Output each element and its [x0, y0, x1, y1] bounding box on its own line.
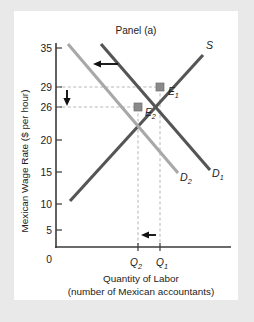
- equilibrium-marker-e1: [156, 83, 164, 91]
- y-tick-label-10: 10: [41, 199, 53, 210]
- y-axis-title: Mexican Wage Rate ($ per hour): [19, 90, 30, 233]
- y-tick-label-20: 20: [41, 135, 53, 146]
- demand-curve-d2: [68, 44, 178, 173]
- y-tick-label-35: 35: [41, 43, 53, 54]
- x-axis-title-line2: (number of Mexican accountants): [68, 286, 215, 297]
- wage-decrease-arrow: [63, 90, 70, 106]
- figure-card: Panel (a) Mexican Wage Rate ($ per hour)…: [14, 11, 238, 300]
- x-tick-label-q2: Q2: [130, 257, 142, 271]
- equilibrium-marker-e2: [134, 103, 142, 111]
- panel-title: Panel (a): [116, 25, 157, 36]
- y-tick-label-15: 15: [41, 167, 53, 178]
- demand-curve-d2-label: D2: [180, 171, 192, 186]
- equilibrium-label-e1: E1: [168, 86, 179, 100]
- quantity-decrease-arrow: [141, 232, 156, 239]
- y-tick-label-29: 29: [41, 82, 53, 93]
- supply-curve-label: S: [206, 39, 213, 51]
- demand-curve-d1-label: D1: [212, 167, 224, 182]
- economics-supply-demand-chart: Panel (a) Mexican Wage Rate ($ per hour)…: [14, 11, 238, 300]
- y-tick-label-5: 5: [46, 225, 52, 236]
- x-axis-title-line1: Quantity of Labor: [103, 273, 179, 284]
- y-tick-label-26: 26: [41, 102, 53, 113]
- origin-label: 0: [46, 254, 52, 265]
- x-tick-label-q1: Q1: [156, 257, 168, 271]
